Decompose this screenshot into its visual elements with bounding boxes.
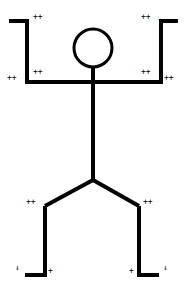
marker-left-ankle: + <box>48 267 53 275</box>
left-thigh <box>45 180 93 206</box>
right-thigh <box>93 180 139 206</box>
marker-left-toe: ↓ <box>15 264 20 272</box>
marker-left-shoulder-outer: ++ <box>7 74 17 82</box>
marker-right-knee: ++ <box>143 198 153 206</box>
head <box>74 29 112 67</box>
marker-right-ankle: + <box>129 267 134 275</box>
marker-left-elbow: ++ <box>33 68 43 76</box>
stick-figure <box>0 0 189 294</box>
marker-right-toe: ↓ <box>163 264 168 272</box>
marker-right-shoulder-outer: ++ <box>164 74 174 82</box>
marker-left-knee: ++ <box>26 198 36 206</box>
marker-right-hand-top: ++ <box>141 13 151 21</box>
marker-right-elbow: ++ <box>141 68 151 76</box>
marker-left-hand-top: ++ <box>33 13 43 21</box>
